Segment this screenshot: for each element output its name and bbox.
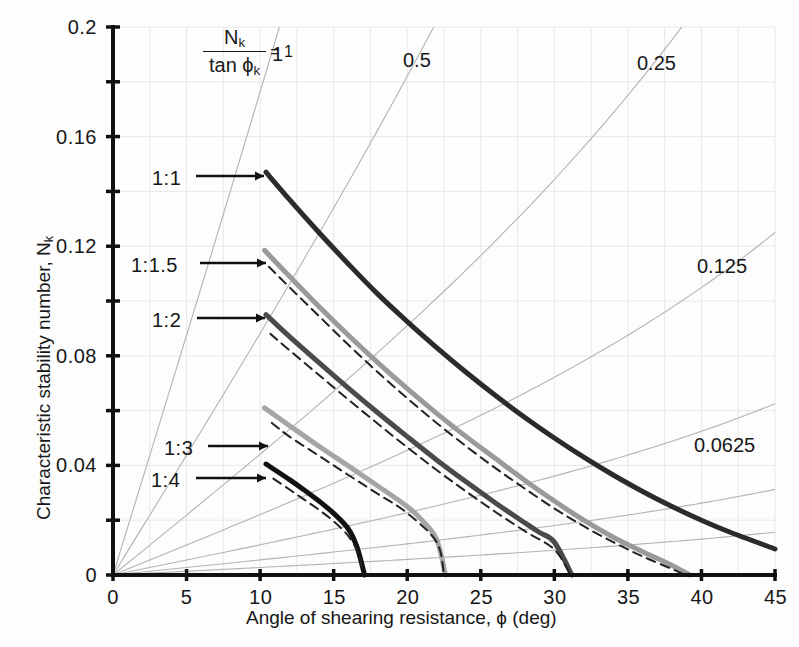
- y-axis-title-subscript: k: [42, 236, 56, 242]
- series-callout-leader: [196, 474, 266, 483]
- ratio-formula-fraction: Nk tan ϕk: [203, 26, 266, 78]
- x-tick-label: 30: [543, 587, 565, 607]
- series-callout-leader: [196, 172, 264, 181]
- x-tick-label: 25: [470, 587, 492, 607]
- callout-leaders: [196, 172, 268, 483]
- ratio-ray-label: 0.0625: [694, 435, 755, 455]
- y-axis-title-text: Characteristic stability number, N: [33, 242, 54, 520]
- curve-1-1-5-dashed: [269, 267, 685, 575]
- series-callout-leader: [197, 314, 265, 323]
- grid-lines: [113, 27, 775, 575]
- series-callout-label: 1:4: [151, 470, 180, 490]
- series-callout-label: 1:3: [164, 438, 193, 458]
- ratio-ray-label: 0.25: [637, 53, 676, 73]
- y-tick-label: 0.2: [0, 17, 97, 37]
- series-callout-leader: [208, 442, 268, 451]
- y-tick-label: 0: [0, 565, 97, 585]
- curve-1-4: [266, 464, 365, 575]
- curve-1-1-5: [265, 250, 690, 575]
- ratio-ray-label: 1: [272, 44, 283, 64]
- chart-canvas: [0, 0, 799, 647]
- curve-1-1: [266, 172, 775, 549]
- y-tick-label: 0.16: [0, 127, 97, 147]
- chart-figure: 00.040.080.120.160.2 051015202530354045 …: [0, 0, 799, 647]
- x-tick-label: 35: [617, 587, 639, 607]
- ratio-formula-denominator: tan ϕk: [203, 52, 266, 78]
- series-callout-label: 1:2: [152, 310, 181, 330]
- axis-lines-ticks: [106, 27, 775, 581]
- x-axis-title-text: Angle of shearing resistance, ϕ (deg): [246, 607, 557, 628]
- ratio-ray-label: 0.5: [403, 50, 431, 70]
- series-callout-label: 1:1.5: [131, 255, 178, 275]
- ratio-formula-numerator: Nk: [203, 26, 266, 52]
- curve-1-2: [266, 315, 572, 575]
- x-tick-label: 40: [690, 587, 712, 607]
- data-curves: [265, 172, 775, 575]
- ratio-ray-label: 0.125: [697, 256, 747, 276]
- x-tick-label: 0: [102, 587, 124, 607]
- x-tick-label: 20: [396, 587, 418, 607]
- series-callout-label: 1:1: [152, 168, 181, 188]
- x-tick-label: 5: [176, 587, 198, 607]
- x-tick-label: 10: [249, 587, 271, 607]
- x-tick-label: 45: [764, 587, 786, 607]
- x-axis-title: Angle of shearing resistance, ϕ (deg): [246, 608, 557, 627]
- y-axis-title: Characteristic stability number, Nk: [34, 236, 55, 520]
- x-tick-label: 15: [323, 587, 345, 607]
